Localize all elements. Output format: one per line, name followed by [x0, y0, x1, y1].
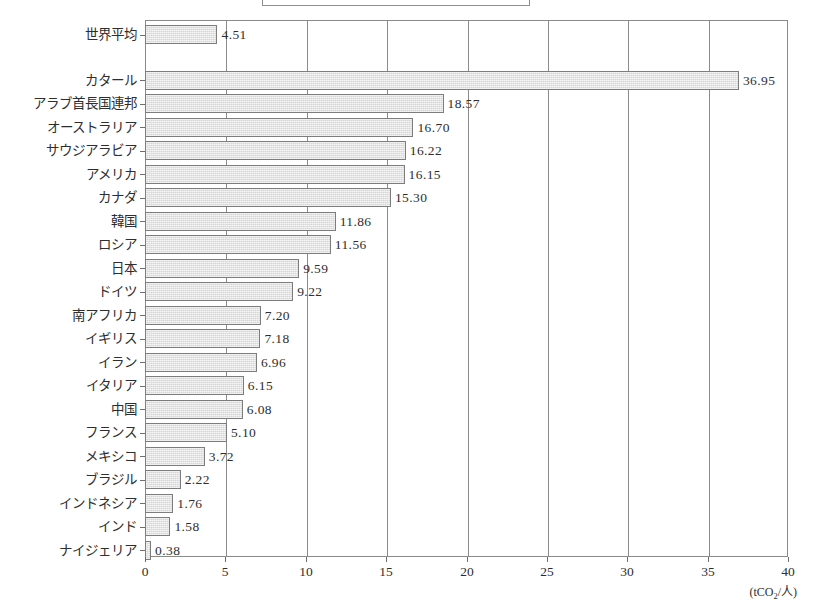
chart-row: ドイツ9.22 [0, 282, 819, 301]
chart-row: フランス5.10 [0, 423, 819, 442]
chart-row: カナダ15.30 [0, 188, 819, 207]
chart-row: イラン6.96 [0, 353, 819, 372]
bar[interactable] [145, 517, 170, 536]
bar[interactable] [145, 212, 336, 231]
bar-value-label: 11.86 [336, 212, 372, 231]
chart-row: 中国6.08 [0, 400, 819, 419]
chart-row: インドネシア1.76 [0, 494, 819, 513]
bar[interactable] [145, 235, 331, 254]
category-label: 韓国 [0, 212, 142, 231]
bar[interactable] [145, 259, 299, 278]
chart-row: オーストラリア16.70 [0, 118, 819, 137]
chart-row: メキシコ3.72 [0, 447, 819, 466]
chart-row: ブラジル2.22 [0, 470, 819, 489]
category-label: インド [0, 517, 142, 536]
bar-value-label: 7.18 [260, 329, 289, 348]
category-label: オーストラリア [0, 118, 142, 137]
bar-value-label: 5.10 [227, 423, 256, 442]
bar-value-label: 15.30 [391, 188, 427, 207]
chart-row: 韓国11.86 [0, 212, 819, 231]
bar-value-label: 18.57 [444, 94, 480, 113]
bar-value-label: 2.22 [181, 470, 210, 489]
chart-row: アラブ首長国連邦18.57 [0, 94, 819, 113]
bar-value-label: 16.70 [413, 118, 449, 137]
bar-value-label: 1.76 [173, 494, 202, 513]
x-axis-tick [225, 557, 226, 562]
category-label: カタール [0, 71, 142, 90]
bar[interactable] [145, 470, 181, 489]
x-axis-tick [627, 557, 628, 562]
chart-row: 世界平均4.51 [0, 25, 819, 44]
bar-value-label: 16.15 [405, 165, 441, 184]
bar[interactable] [145, 71, 739, 90]
category-label: 中国 [0, 400, 142, 419]
x-axis-tick [788, 557, 789, 562]
bar[interactable] [145, 447, 205, 466]
x-axis-tick-label: 0 [142, 564, 149, 580]
chart-page: 世界平均4.51カタール36.95アラブ首長国連邦18.57オーストラリア16.… [0, 0, 819, 600]
chart-row: インド1.58 [0, 517, 819, 536]
x-axis-tick-label: 5 [222, 564, 229, 580]
category-label: ドイツ [0, 282, 142, 301]
category-label: ロシア [0, 235, 142, 254]
x-axis-tick-label: 35 [701, 564, 715, 580]
bar[interactable] [145, 141, 406, 160]
bar[interactable] [145, 25, 217, 44]
bar-value-label: 11.56 [331, 235, 367, 254]
x-axis-tick-label: 25 [540, 564, 554, 580]
bar-value-label: 36.95 [739, 71, 775, 90]
x-axis-tick-label: 10 [299, 564, 313, 580]
bar-value-label: 6.15 [244, 376, 273, 395]
bar[interactable] [145, 94, 444, 113]
bar-value-label: 9.22 [293, 282, 322, 301]
bar-value-label: 9.59 [299, 259, 328, 278]
category-label: アメリカ [0, 165, 142, 184]
category-label: アラブ首長国連邦 [0, 94, 142, 113]
chart-row: ロシア11.56 [0, 235, 819, 254]
bar-value-label: 16.22 [406, 141, 442, 160]
bar[interactable] [145, 188, 391, 207]
chart-row: サウジアラビア16.22 [0, 141, 819, 160]
bar[interactable] [145, 282, 293, 301]
chart-row: 南アフリカ7.20 [0, 306, 819, 325]
bar[interactable] [145, 329, 260, 348]
chart-row: イギリス7.18 [0, 329, 819, 348]
chart-row: アメリカ16.15 [0, 165, 819, 184]
chart-row: イタリア6.15 [0, 376, 819, 395]
bar[interactable] [145, 494, 173, 513]
category-label: カナダ [0, 188, 142, 207]
category-label: イラン [0, 353, 142, 372]
bar-value-label: 7.20 [261, 306, 290, 325]
x-axis-tick [306, 557, 307, 562]
category-label: イタリア [0, 376, 142, 395]
category-label: メキシコ [0, 447, 142, 466]
x-axis-tick-label: 15 [379, 564, 393, 580]
x-axis-tick [547, 557, 548, 562]
x-axis-tick-label: 20 [460, 564, 474, 580]
x-axis-tick [145, 557, 146, 562]
category-label: イギリス [0, 329, 142, 348]
x-axis-tick [467, 557, 468, 562]
bar[interactable] [145, 423, 227, 442]
bar[interactable] [145, 118, 413, 137]
bar[interactable] [145, 306, 261, 325]
bar-value-label: 4.51 [217, 25, 246, 44]
category-label: ナイジェリア [0, 541, 142, 560]
x-axis-tick [708, 557, 709, 562]
chart-row: 日本9.59 [0, 259, 819, 278]
unit-prefix: (tCO [749, 585, 773, 599]
bar-value-label: 0.38 [151, 541, 180, 560]
category-label: フランス [0, 423, 142, 442]
bar[interactable] [145, 400, 243, 419]
category-label: 世界平均 [0, 25, 142, 44]
category-label: 南アフリカ [0, 306, 142, 325]
category-label: 日本 [0, 259, 142, 278]
category-label: インドネシア [0, 494, 142, 513]
chart-row: カタール36.95 [0, 71, 819, 90]
bar[interactable] [145, 353, 257, 372]
chart-row: ナイジェリア0.38 [0, 541, 819, 560]
unit-suffix: /人) [778, 585, 797, 599]
bar[interactable] [145, 165, 405, 184]
bar[interactable] [145, 376, 244, 395]
bar-value-label: 6.96 [257, 353, 286, 372]
